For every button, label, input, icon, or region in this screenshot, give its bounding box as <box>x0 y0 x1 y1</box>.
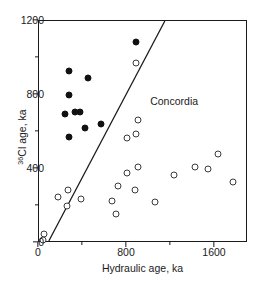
concordia-line <box>39 21 246 241</box>
plot-area <box>38 20 247 242</box>
data-point-filled <box>98 120 105 127</box>
data-point-filled <box>62 110 69 117</box>
data-point-open <box>152 199 159 206</box>
data-point-filled <box>66 67 73 74</box>
data-point-filled <box>65 92 72 99</box>
data-point-open <box>64 187 71 194</box>
data-point-open <box>113 211 120 218</box>
data-point-open <box>135 116 142 123</box>
x-axis-tick-label: 800 <box>117 246 135 258</box>
data-point-open <box>77 195 84 202</box>
y-axis-title: 36Cl age, ka <box>16 77 28 197</box>
data-point-open <box>132 59 139 66</box>
data-point-filled <box>66 133 73 140</box>
y-axis-tick-label: 800 <box>26 88 44 100</box>
data-point-open <box>214 151 221 158</box>
y-axis-minor-tick <box>35 56 38 57</box>
data-point-open <box>124 169 131 176</box>
data-point-filled <box>77 108 84 115</box>
y-axis-tick-label: 1200 <box>21 14 44 26</box>
data-point-open <box>124 135 131 142</box>
data-point-open <box>63 203 70 210</box>
data-point-filled <box>132 39 139 46</box>
y-axis-title-text: Cl age, ka <box>16 109 28 156</box>
concordia-annotation-label: Concordia <box>150 95 198 107</box>
x-axis-tick-label: 0 <box>35 246 41 258</box>
data-point-filled <box>81 125 88 132</box>
y-axis-tick-label: 400 <box>26 162 44 174</box>
x-axis-minor-tick <box>169 242 170 245</box>
x-axis-minor-tick <box>81 242 82 245</box>
x-axis-tick-label: 1600 <box>202 246 225 258</box>
data-point-open <box>171 171 178 178</box>
data-point-open <box>229 178 236 185</box>
y-axis-minor-tick <box>35 204 38 205</box>
data-point-open <box>54 193 61 200</box>
data-point-open <box>132 187 139 194</box>
data-point-open <box>115 182 122 189</box>
data-point-open <box>132 130 139 137</box>
data-point-open <box>108 198 115 205</box>
x-axis-title: Hydraulic age, ka <box>38 262 247 274</box>
chart-figure: 0400800120008001600 Concordia Hydraulic … <box>0 0 262 283</box>
data-point-filled <box>84 75 91 82</box>
data-point-open <box>205 166 212 173</box>
y-axis-minor-tick <box>35 130 38 131</box>
data-point-open <box>135 164 142 171</box>
y-axis-title-superscript: 36 <box>16 157 25 165</box>
data-point-open <box>192 164 199 171</box>
